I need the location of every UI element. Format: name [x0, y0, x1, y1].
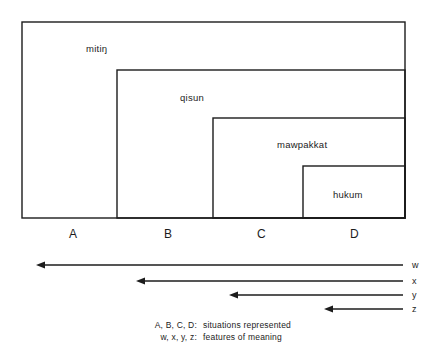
caption-text-situations: situations represented [203, 320, 291, 330]
feature-label-x: x [412, 277, 417, 286]
box-label-qisun: qisun [180, 93, 204, 103]
situation-label-a: A [69, 228, 77, 240]
feature-label-y: y [412, 291, 417, 300]
figure-root: mitiŋ qisun mawpakkat hukum A B C D w x … [0, 0, 435, 348]
feature-label-w: w [412, 261, 419, 270]
caption-text-features: features of meaning [203, 332, 282, 342]
feature-label-z: z [412, 305, 417, 314]
arrow-z [324, 306, 403, 313]
arrow-y [229, 292, 403, 299]
caption-key-situations: A, B, C, D: [141, 321, 197, 330]
nested-box-c [213, 118, 405, 218]
situation-label-c: C [257, 228, 266, 240]
situation-label-d: D [350, 228, 359, 240]
caption-key-features: w, x, y, z: [141, 333, 197, 342]
situation-label-b: B [164, 228, 172, 240]
arrow-w [36, 262, 403, 269]
arrow-x [136, 278, 403, 285]
box-label-mitin: mitiŋ [86, 44, 107, 54]
diagram-canvas [0, 0, 435, 348]
caption-line-situations: A, B, C, D:situations represented [141, 321, 291, 330]
caption-line-features: w, x, y, z:features of meaning [141, 333, 282, 342]
box-label-hukum: hukum [333, 190, 363, 200]
box-label-mawpakkat: mawpakkat [277, 140, 327, 150]
